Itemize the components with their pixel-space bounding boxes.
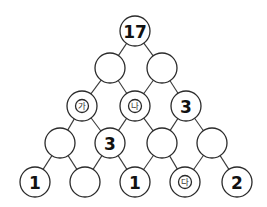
pyramid-cell-r4c4: 2: [222, 167, 252, 197]
connector-line-r2c1-r3c2: [144, 118, 153, 131]
connector-line-r0c0-r1c1: [144, 43, 153, 56]
circled-korean-label: 나: [131, 101, 139, 111]
cell-circle: [147, 53, 177, 83]
connector-line-r3c0-r4c1: [68, 156, 77, 170]
cell-number: 1: [129, 173, 141, 193]
connector-line-r2c0-r3c1: [91, 118, 101, 131]
pyramid-cell-r1c0-blank: [95, 53, 125, 83]
pyramid-cell-r4c1-blank: [70, 167, 100, 197]
cell-number: 17: [123, 22, 147, 42]
cell-circle: [45, 128, 75, 158]
connector-line-r2c1-r3c1: [118, 118, 126, 130]
circled-korean-label: 가: [78, 101, 86, 111]
cell-number: 3: [104, 134, 116, 154]
pyramid-cell-r2c2: 3: [171, 91, 201, 121]
connector-line-r3c3-r4c4: [220, 156, 229, 170]
cell-number: 1: [29, 173, 41, 193]
pyramid-canvas: 17가나3311다2: [0, 0, 267, 207]
pyramid-nodes: 17가나3311다2: [20, 16, 252, 197]
cell-number: 2: [231, 173, 243, 193]
connector-line-r3c0-r4c0: [43, 156, 52, 170]
connector-line-r2c0-r3c0: [68, 119, 75, 130]
connector-line-r1c1-r2c2: [170, 81, 178, 94]
pyramid-cell-r2c1: 나: [120, 91, 150, 121]
pyramid-cell-r3c1: 3: [95, 128, 125, 158]
cell-circle: [95, 53, 125, 83]
pyramid-cell-r4c0: 1: [20, 167, 50, 197]
connector-line-r2c2-r3c2: [170, 119, 178, 131]
cell-circle: [197, 128, 227, 158]
connector-line-r3c1-r4c1: [93, 156, 102, 170]
pyramid-cell-r3c2-blank: [147, 128, 177, 158]
connector-line-r3c3-r4c3: [194, 155, 204, 169]
pyramid-cell-r4c3: 다: [170, 167, 200, 197]
cell-circle: [147, 128, 177, 158]
pyramid-cell-r1c1-blank: [147, 53, 177, 83]
pyramid-cell-r3c0-blank: [45, 128, 75, 158]
connector-line-r3c1-r4c2: [118, 156, 127, 170]
cell-number: 3: [180, 97, 192, 117]
connector-line-r1c0-r2c0: [91, 80, 101, 94]
connector-line-r1c0-r2c1: [118, 81, 127, 94]
connector-line-r3c2-r4c3: [170, 156, 178, 169]
cell-circle: [70, 167, 100, 197]
connector-line-r2c2-r3c3: [195, 118, 204, 130]
connector-line-r3c2-r4c2: [144, 155, 154, 169]
pyramid-cell-r3c3-blank: [197, 128, 227, 158]
circled-korean-label: 다: [181, 177, 189, 187]
number-pyramid-diagram: 17가나3311다2: [0, 0, 267, 207]
pyramid-cell-r2c0: 가: [67, 91, 97, 121]
connector-line-r0c0-r1c0: [118, 43, 126, 55]
connector-line-r1c1-r2c1: [144, 80, 154, 94]
pyramid-cell-r4c2: 1: [120, 167, 150, 197]
pyramid-cell-r0c0: 17: [120, 16, 150, 46]
